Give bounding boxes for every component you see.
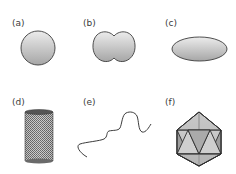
sphere-shape <box>21 31 55 65</box>
dumbbell-shape <box>93 32 135 62</box>
icosahedron-shape <box>177 112 221 166</box>
cylinder-mesh-shape <box>25 110 53 164</box>
flexible-chain-shape <box>78 112 151 157</box>
ellipsoid-shape <box>172 37 227 61</box>
